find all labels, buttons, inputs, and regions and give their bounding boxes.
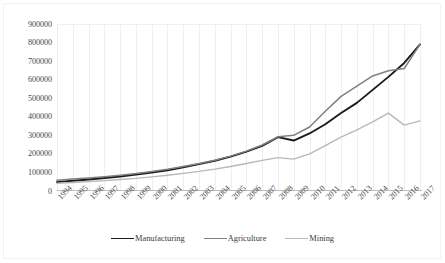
y-axis-tick-label: 200000 [0, 149, 52, 158]
line-chart: 9000008000007000006000005000004000003000… [0, 0, 445, 263]
y-axis-tick-label: 500000 [0, 94, 52, 103]
y-axis-tick-label: 700000 [0, 57, 52, 66]
legend-line-swatch [285, 238, 308, 239]
y-axis-tick-label: 100000 [0, 168, 52, 177]
legend-label: Agriculture [228, 234, 267, 243]
x-axis: 1994199519961997199819992000200120022003… [0, 191, 445, 225]
legend-item[interactable]: Manufacturing [111, 234, 185, 243]
series-line-manufacturing [57, 44, 420, 182]
chart-legend: ManufacturingAgricultureMining [0, 230, 445, 246]
legend-line-swatch [204, 238, 227, 239]
series-lines [57, 24, 421, 191]
legend-item[interactable]: Agriculture [204, 234, 267, 243]
legend-label: Manufacturing [135, 234, 185, 243]
y-axis-tick-label: 800000 [0, 38, 52, 47]
y-axis-tick-label: 600000 [0, 75, 52, 84]
legend-item[interactable]: Mining [285, 234, 334, 243]
series-line-agriculture [57, 44, 420, 180]
y-axis-tick-label: 400000 [0, 112, 52, 121]
x-axis-tick-label: 2017 [419, 184, 437, 202]
legend-label: Mining [309, 234, 334, 243]
plot-area [57, 24, 421, 191]
y-axis-tick-label: 300000 [0, 131, 52, 140]
series-line-mining [57, 113, 420, 183]
y-axis-tick-label: 900000 [0, 20, 52, 29]
legend-line-swatch [111, 238, 134, 239]
